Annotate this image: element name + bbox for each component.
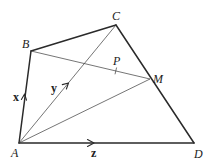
point-labels: A B C D M P bbox=[10, 9, 203, 159]
edge-bc bbox=[31, 25, 116, 51]
label-vector-x: x bbox=[13, 90, 19, 104]
label-c: C bbox=[112, 9, 121, 23]
label-vector-z: z bbox=[91, 146, 97, 159]
segment-am bbox=[19, 79, 150, 143]
label-a: A bbox=[10, 146, 19, 159]
segment-bm bbox=[31, 51, 150, 79]
vector-arrowheads bbox=[21, 83, 94, 147]
label-m: M bbox=[152, 72, 164, 86]
segment-ac bbox=[19, 25, 116, 143]
label-p: P bbox=[112, 54, 121, 68]
interior-segments bbox=[19, 25, 150, 143]
label-b: B bbox=[22, 37, 30, 51]
label-d: D bbox=[193, 147, 203, 159]
quadrilateral-edges bbox=[19, 25, 194, 143]
label-vector-y: y bbox=[51, 81, 57, 95]
geometry-diagram: A B C D M P x y z bbox=[0, 0, 209, 159]
